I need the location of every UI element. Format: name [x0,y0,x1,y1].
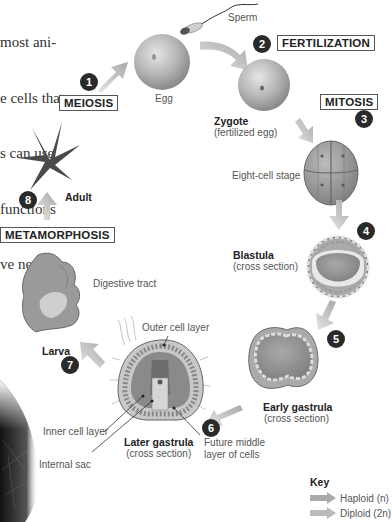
step-7-badge: 7 [61,356,79,374]
process-fertilization: FERTILIZATION [277,35,375,51]
callout-inner-cell-layer: Inner cell layer [43,426,108,437]
process-meiosis: MEIOSIS [59,95,118,111]
legend-title: Key [310,476,391,488]
label-eight-cell: Eight-cell stage [232,170,300,181]
adult-starfish-illustration [18,122,80,190]
blastula-illustration [308,237,368,297]
eight-cell-illustration [304,141,358,205]
step-5-badge: 5 [327,330,345,348]
life-cycle-illustration [0,0,392,522]
step-2-badge: 2 [253,35,271,53]
legend-item-diploid: Diploid (2n) [310,507,391,519]
label-larva: Larva [42,345,70,357]
label-later-gastrula: Later gastrula (cross section) [124,436,193,460]
step-8-badge: 8 [19,191,37,209]
callout-future-middle-layer: Future middle layer of cells [204,437,265,461]
early-gastrula-illustration [249,328,318,389]
label-zygote: Zygote (fertilized egg) [214,115,277,139]
arrow-2 [200,42,248,70]
step-1-badge: 1 [80,73,98,91]
arrow-3 [295,118,313,143]
haploid-arrow-icon [310,492,336,504]
step-4-badge: 4 [357,222,375,240]
arrow-5 [316,300,336,330]
arrow-1 [98,62,128,93]
label-early-gastrula: Early gastrula (cross section) [263,401,332,425]
callout-outer-cell-layer: Outer cell layer [142,322,209,333]
process-mitosis: MITOSIS [320,94,378,110]
callout-internal-sac: Internal sac [39,459,91,470]
label-sperm: Sperm [228,12,257,23]
step-3-badge: 3 [355,110,373,128]
background-photo-fragment [0,380,38,522]
larva-illustration [23,253,80,332]
label-egg: Egg [155,93,173,104]
diploid-arrow-icon [310,507,336,519]
zygote-illustration [238,59,290,111]
callout-digestive-tract: Digestive tract [93,278,156,289]
label-adult: Adult [65,191,92,203]
legend-item-haploid: Haploid (n) [310,492,391,504]
legend: Key Haploid (n) Diploid (2n) [310,476,391,519]
arrow-8 [37,192,57,220]
arrow-7 [80,342,105,368]
process-metamorphosis: METAMORPHOSIS [0,227,115,243]
label-blastula: Blastula (cross section) [233,249,298,273]
egg-illustration [134,34,190,90]
step-6-badge: 6 [202,419,220,437]
